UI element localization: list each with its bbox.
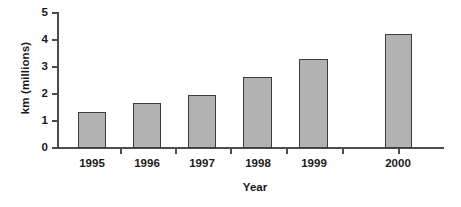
x-tick-label-1997: 1997 <box>172 157 232 170</box>
bar-1997 <box>188 95 216 148</box>
x-tick-label-1996: 1996 <box>117 157 177 170</box>
bar-1995 <box>78 112 106 148</box>
bar-2000 <box>385 34 412 148</box>
y-tick-mark-3 <box>52 66 58 68</box>
x-tick-mark-5 <box>342 149 344 154</box>
x-tick-mark-6 <box>398 149 400 154</box>
y-tick-label-0: 0 <box>22 142 48 153</box>
x-tick-label-1999: 1999 <box>284 157 344 170</box>
x-tick-label-1995: 1995 <box>62 157 122 170</box>
x-tick-mark-1 <box>120 149 122 154</box>
bar-chart: km (millions) 5 4 3 2 1 0 1995 1996 1997… <box>0 0 461 207</box>
bar-1998 <box>243 77 272 148</box>
bar-1999 <box>299 59 328 148</box>
x-tick-label-2000: 2000 <box>368 157 428 170</box>
y-tick-mark-2 <box>52 93 58 95</box>
bar-1996 <box>133 103 161 148</box>
y-tick-mark-4 <box>52 39 58 41</box>
x-tick-mark-4 <box>286 149 288 154</box>
y-tick-label-5: 5 <box>22 7 48 18</box>
y-tick-label-4: 4 <box>22 34 48 45</box>
x-axis-title: Year <box>195 180 315 194</box>
y-tick-mark-5 <box>52 12 58 14</box>
x-tick-mark-2 <box>175 149 177 154</box>
y-tick-mark-0 <box>52 147 58 149</box>
y-tick-mark-1 <box>52 120 58 122</box>
y-tick-label-2: 2 <box>22 88 48 99</box>
x-tick-label-1998: 1998 <box>228 157 288 170</box>
y-tick-label-3: 3 <box>22 61 48 72</box>
x-tick-mark-3 <box>230 149 232 154</box>
y-tick-label-1: 1 <box>22 115 48 126</box>
y-axis-line <box>57 12 59 149</box>
y-axis-title: km (millions) <box>14 0 36 158</box>
